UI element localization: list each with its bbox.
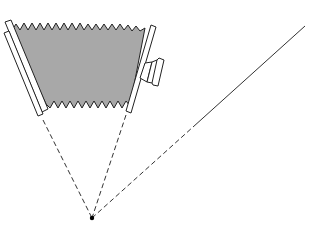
dashed-ray-right [92, 115, 126, 218]
converging-point [90, 216, 94, 220]
dashed-ray-left [43, 120, 92, 218]
diagram-canvas [0, 0, 312, 230]
camera-diagram [0, 0, 312, 230]
solid-ray [193, 26, 305, 127]
